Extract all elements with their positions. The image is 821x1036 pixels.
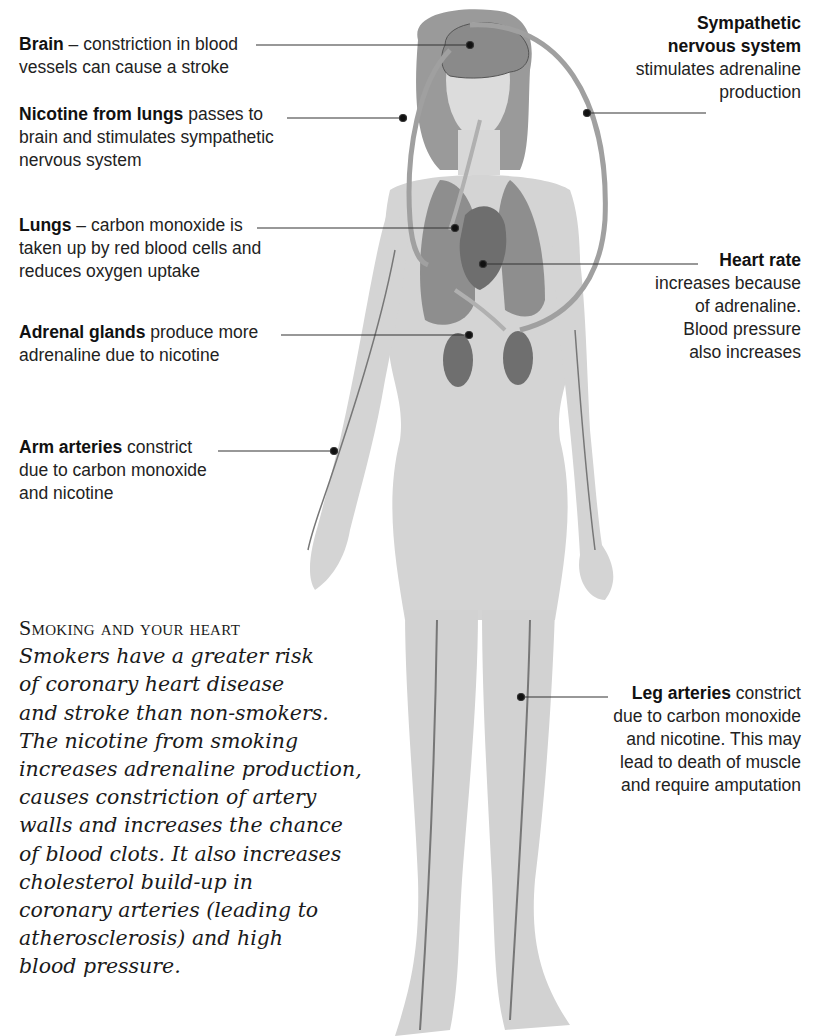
essay-line: increases adrenaline production,	[19, 755, 359, 783]
label-brain: Brain – constriction in blood vessels ca…	[19, 33, 238, 79]
essay-line: Smokers have a greater risk	[19, 642, 359, 670]
essay-line: of blood clots. It also increases	[19, 840, 359, 868]
essay-line: coronary arteries (leading to	[19, 896, 359, 924]
essay-smoking-heart: Smoking and your heart Smokers have a gr…	[19, 614, 359, 981]
essay-line: causes constriction of artery	[19, 783, 359, 811]
right-kidney	[503, 331, 533, 385]
left-kidney	[443, 333, 473, 387]
label-arm-arteries: Arm arteries constrict due to carbon mon…	[19, 436, 207, 505]
label-nicotine: Nicotine from lungs passes to brain and …	[19, 103, 274, 172]
essay-line: of coronary heart disease	[19, 670, 359, 698]
label-sympathetic: Sympathetic nervous system stimulates ad…	[636, 12, 801, 104]
essay-line: and stroke than non-smokers.	[19, 699, 359, 727]
essay-title: Smoking and your heart	[19, 614, 359, 642]
label-leg-arteries: Leg arteries constrict due to carbon mon…	[613, 682, 801, 797]
essay-line: cholesterol build-up in	[19, 868, 359, 896]
essay-line: blood pressure.	[19, 952, 359, 980]
essay-line: walls and increases the chance	[19, 811, 359, 839]
label-adrenal: Adrenal glands produce more adrenaline d…	[19, 321, 258, 367]
label-heart-rate: Heart rate increases because of adrenali…	[655, 249, 801, 364]
essay-line: atherosclerosis) and high	[19, 924, 359, 952]
right-leg	[482, 610, 570, 1030]
essay-line: The nicotine from smoking	[19, 727, 359, 755]
label-lungs: Lungs – carbon monoxide is taken up by r…	[19, 214, 261, 283]
